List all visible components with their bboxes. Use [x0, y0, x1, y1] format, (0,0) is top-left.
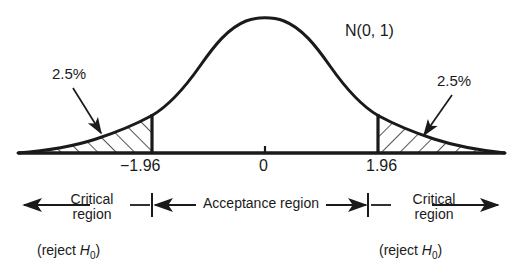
- left-critical-region-line1: Critical: [55, 192, 129, 207]
- tick-label-zero: 0: [259, 157, 268, 175]
- left-reject-h-symbol: H: [80, 242, 90, 258]
- figure-canvas: [0, 0, 522, 273]
- left-tail-percentage-label: 2.5%: [52, 66, 86, 83]
- tick-label-positive-1-96: 1.96: [366, 157, 397, 175]
- left-critical-region-label: Critical region: [55, 192, 129, 223]
- left-reject-close: ): [95, 242, 100, 258]
- left-pct-leader-arrow: [73, 88, 101, 133]
- distribution-label: N(0, 1): [345, 22, 394, 40]
- right-critical-region-label: Critical region: [397, 192, 471, 223]
- acceptance-region-label: Acceptance region: [200, 196, 322, 211]
- tick-label-negative-1-96: −1.96: [120, 157, 160, 175]
- right-reject-open: (reject: [379, 242, 422, 258]
- left-critical-region-shading: [18, 116, 152, 154]
- normal-distribution-hypothesis-test-figure: N(0, 1) 2.5% 2.5% −1.96 0 1.96 Critical …: [0, 0, 522, 273]
- right-pct-leader-arrow: [424, 95, 452, 135]
- right-critical-region-line2: region: [397, 207, 471, 222]
- left-critical-region-line2: region: [55, 207, 129, 222]
- normal-curve: [18, 18, 505, 153]
- right-critical-region-line1: Critical: [397, 192, 471, 207]
- right-critical-region-shading: [378, 116, 505, 154]
- right-reject-h-symbol: H: [422, 242, 432, 258]
- right-reject-close: ): [437, 242, 442, 258]
- right-tail-percentage-label: 2.5%: [437, 73, 471, 90]
- right-reject-null-label: (reject H0): [379, 243, 442, 261]
- left-reject-null-label: (reject H0): [37, 243, 100, 261]
- left-reject-open: (reject: [37, 242, 80, 258]
